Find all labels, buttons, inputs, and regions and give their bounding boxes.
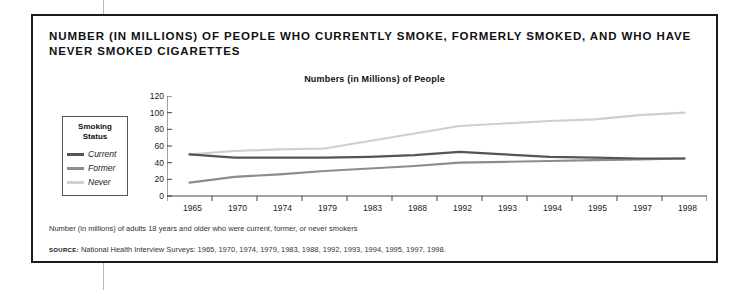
y-tick-label: 120 xyxy=(150,91,164,101)
chart-card: NUMBER (IN MILLIONS) OF PEOPLE WHO CURRE… xyxy=(31,14,718,263)
legend-items: CurrentFormerNever xyxy=(67,147,123,189)
y-tick-label: 100 xyxy=(150,108,164,118)
legend-swatch-icon xyxy=(67,153,84,156)
legend-title-line-1: Smoking xyxy=(67,122,123,132)
legend-item-never: Never xyxy=(67,175,123,189)
legend-swatch-icon xyxy=(67,181,84,184)
legend-item-former: Former xyxy=(67,161,123,175)
chart-footnote: Number (in millions) of adults 18 years … xyxy=(49,224,357,233)
legend-item-current: Current xyxy=(67,147,123,161)
legend: Smoking Status CurrentFormerNever xyxy=(62,116,128,196)
y-axis-labels: 020406080100120 xyxy=(137,96,164,197)
x-tick-label: 1997 xyxy=(633,203,652,213)
series-line-never xyxy=(190,113,685,155)
legend-title: Smoking Status xyxy=(67,122,123,142)
series-line-former xyxy=(190,159,685,183)
x-tick-label: 1995 xyxy=(588,203,607,213)
x-tick-label: 1988 xyxy=(408,203,427,213)
y-tick-label: 80 xyxy=(155,124,164,134)
x-tick-label: 1993 xyxy=(498,203,517,213)
legend-swatch-icon xyxy=(67,167,84,170)
x-tick-label: 1992 xyxy=(453,203,472,213)
series-line-current xyxy=(190,152,685,159)
y-tick-label: 0 xyxy=(159,191,164,201)
x-tick-label: 1965 xyxy=(183,203,202,213)
legend-title-line-2: Status xyxy=(67,132,123,142)
x-tick-label: 1998 xyxy=(678,203,697,213)
plot-area: 020406080100120 196519701974197919831988… xyxy=(137,96,707,231)
x-tick-label: 1979 xyxy=(318,203,337,213)
x-tick-label: 1983 xyxy=(363,203,382,213)
y-tick-label: 20 xyxy=(155,174,164,184)
source-text: National Health Interview Surveys: 1965,… xyxy=(81,245,446,254)
legend-label: Former xyxy=(88,163,115,173)
x-tick-label: 1974 xyxy=(273,203,292,213)
legend-label: Current xyxy=(88,149,116,159)
card-title: NUMBER (IN MILLIONS) OF PEOPLE WHO CURRE… xyxy=(49,29,694,59)
line-chart-svg xyxy=(167,96,707,202)
x-axis-labels: 1965197019741979198319881992199319941995… xyxy=(170,203,707,219)
y-tick-label: 40 xyxy=(155,158,164,168)
chart-source: SOURCE: National Health Interview Survey… xyxy=(49,245,446,254)
y-tick-label: 60 xyxy=(155,141,164,151)
legend-label: Never xyxy=(88,177,111,187)
x-tick-label: 1994 xyxy=(543,203,562,213)
source-kicker: SOURCE: xyxy=(49,247,79,253)
chart-title: Numbers (in Millions) of People xyxy=(33,74,716,84)
x-tick-label: 1970 xyxy=(228,203,247,213)
